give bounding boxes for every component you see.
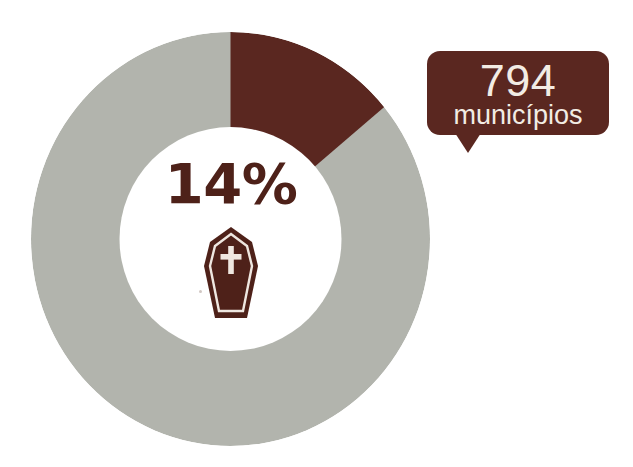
callout-tail-icon [455,133,481,153]
callout-label: municípios [453,102,582,130]
donut-chart [31,32,430,446]
callout-number: 794 [480,59,557,103]
infographic-canvas: 14% 794 municípios [0,0,633,467]
callout-bubble[interactable]: 794 municípios [427,51,609,135]
print-speckle [199,290,202,293]
donut-chart-svg [31,32,430,446]
